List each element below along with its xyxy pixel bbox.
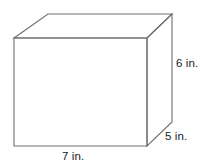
height-dimension-label: 6 in. (176, 57, 198, 69)
prism-top-face (14, 14, 172, 38)
prism-figure: 6 in. 5 in. 7 in. (0, 0, 209, 167)
depth-dimension-label: 5 in. (165, 130, 187, 142)
width-dimension-label: 7 in. (62, 150, 84, 162)
prism-front-face (14, 38, 147, 146)
